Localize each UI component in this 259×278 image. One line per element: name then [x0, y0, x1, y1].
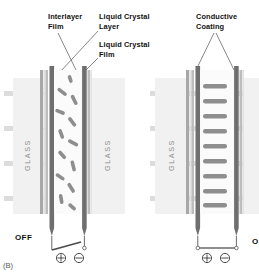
lc-rod: [203, 114, 227, 118]
lc-rod: [203, 174, 227, 178]
on-circuit: [196, 236, 238, 263]
off-panel-group: GLASS GLASS: [4, 66, 125, 263]
diagram-svg: GLASS GLASS: [0, 0, 259, 278]
terminal-negative: [74, 253, 83, 262]
electrode-left-tip: [50, 228, 55, 236]
interlayer-film-layer: [186, 70, 189, 214]
terminal-positive: [202, 253, 211, 262]
electrode-left: [50, 66, 55, 228]
leader-conductive-left: [196, 33, 214, 70]
electrode-left-tip: [196, 228, 201, 236]
leader-lc-film: [86, 58, 98, 70]
gap-layer: [44, 70, 46, 214]
lc-film-layer-left: [191, 70, 194, 214]
glass-slab-right: [243, 78, 259, 214]
lc-rod: [203, 159, 227, 163]
leader-conductive-right: [216, 33, 234, 70]
switch-contact-left: [196, 246, 200, 250]
terminal-positive: [56, 253, 65, 262]
leader-lines: [58, 31, 234, 72]
electrode-right: [82, 66, 87, 228]
lc-film-layer-left: [45, 70, 48, 214]
on-panel-group: GLASS: [150, 66, 259, 263]
electrode-left: [196, 66, 201, 228]
lc-rod: [203, 144, 227, 148]
lc-rod: [203, 189, 227, 193]
lc-rod: [203, 129, 227, 133]
figure-container: Interlayer Film Liquid Crystal Layer Liq…: [0, 0, 259, 278]
lc-cavity-off: [54, 70, 82, 214]
interlayer-film-layer: [40, 70, 43, 214]
lc-rod: [203, 84, 227, 88]
lc-rod: [203, 203, 227, 207]
electrode-right-tip: [82, 228, 87, 236]
gap-layer-2: [242, 70, 244, 214]
electrode-right-tip: [234, 228, 239, 236]
electrode-right: [234, 66, 239, 228]
glass-text-left: GLASS: [167, 139, 176, 171]
switch-contact-right: [235, 246, 239, 250]
lc-film-layer-right: [88, 70, 91, 214]
lc-film-layer-right: [240, 70, 243, 214]
glass-text-left: GLASS: [23, 139, 32, 171]
switch-contact: [83, 246, 87, 250]
gap-layer-2: [90, 70, 92, 214]
leader-lc-layer: [60, 31, 98, 72]
switch-blade-open: [52, 242, 81, 250]
gap-layer: [190, 70, 192, 214]
glass-text-right: GLASS: [103, 139, 112, 171]
lc-rod: [203, 99, 227, 103]
terminal-negative: [220, 253, 229, 262]
off-circuit: [52, 236, 86, 263]
